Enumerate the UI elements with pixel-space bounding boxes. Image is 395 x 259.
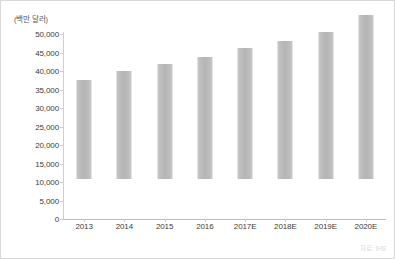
bar (197, 57, 212, 179)
y-tick-mark (60, 219, 63, 220)
y-tick-label: 5,000 (39, 196, 59, 205)
y-tick-label: 30,000 (35, 104, 59, 113)
bar (238, 48, 253, 179)
bar-slot (265, 1, 305, 220)
bar-slot (225, 1, 265, 220)
x-tick-mark (245, 219, 246, 222)
y-tick-label: 50,000 (35, 30, 59, 39)
y-tick-label: 20,000 (35, 141, 59, 150)
y-axis-tick-labels: 05,00010,00015,00020,00025,00030,00035,0… (1, 1, 59, 259)
x-tick-mark (165, 219, 166, 222)
bar (117, 71, 132, 179)
bar (318, 32, 333, 179)
y-tick-label: 45,000 (35, 48, 59, 57)
y-tick-mark (60, 182, 63, 183)
y-tick-label: 35,000 (35, 85, 59, 94)
y-tick-mark (60, 145, 63, 146)
bar-slot (104, 1, 144, 220)
x-tick-label: 2017E (234, 222, 257, 231)
bar-slot (145, 1, 185, 220)
x-tick-mark (326, 219, 327, 222)
bar-slot (306, 1, 346, 220)
x-tick-mark (124, 219, 125, 222)
y-tick-label: 0 (55, 215, 59, 224)
bar (278, 41, 293, 179)
y-tick-label: 15,000 (35, 159, 59, 168)
y-tick-mark (60, 164, 63, 165)
bar-slot (346, 1, 386, 220)
y-tick-label: 25,000 (35, 122, 59, 131)
y-tick-label: 10,000 (35, 178, 59, 187)
y-tick-mark (60, 90, 63, 91)
x-tick-label: 2019E (314, 222, 337, 231)
chart-container: (백만 달러) 05,00010,00015,00020,00025,00030… (0, 0, 395, 259)
x-tick-mark (366, 219, 367, 222)
x-tick-label: 2015 (156, 222, 173, 231)
bar-slot (185, 1, 225, 220)
y-tick-mark (60, 34, 63, 35)
x-tick-label: 2018E (274, 222, 297, 231)
x-tick-label: 2020E (355, 222, 378, 231)
y-tick-mark (60, 127, 63, 128)
source-note: 자료: IHS (360, 243, 386, 253)
y-tick-label: 40,000 (35, 67, 59, 76)
y-tick-mark (60, 53, 63, 54)
x-tick-mark (205, 219, 206, 222)
x-tick-label: 2014 (116, 222, 133, 231)
bar-series (64, 1, 386, 220)
x-axis-tick-labels: 20132014201520162017E2018E2019E2020E (64, 222, 386, 238)
bar (157, 64, 172, 179)
x-tick-mark (285, 219, 286, 222)
x-tick-label: 2013 (75, 222, 92, 231)
bar (358, 15, 373, 179)
x-tick-label: 2016 (196, 222, 213, 231)
y-tick-mark (60, 201, 63, 202)
x-tick-mark (84, 219, 85, 222)
y-tick-mark (60, 71, 63, 72)
bar-slot (64, 1, 104, 220)
y-tick-mark (60, 108, 63, 109)
bar (77, 80, 92, 179)
